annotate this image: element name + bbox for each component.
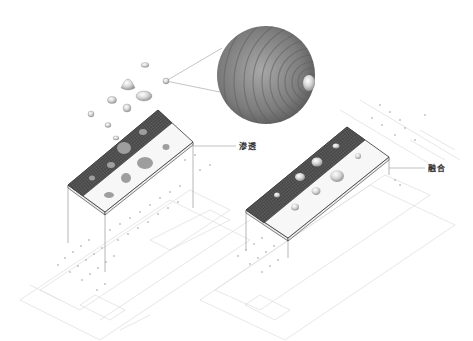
small-sphere — [163, 78, 169, 84]
right-roof-slab — [246, 127, 389, 238]
left-building — [68, 110, 236, 272]
label-fusion: 融合 — [428, 162, 445, 173]
diagram-canvas — [0, 0, 473, 341]
right-floor-plan — [200, 100, 460, 340]
left-roof-slab — [68, 110, 193, 212]
label-permeation: 渗透 — [239, 140, 256, 151]
right-building — [246, 127, 425, 258]
